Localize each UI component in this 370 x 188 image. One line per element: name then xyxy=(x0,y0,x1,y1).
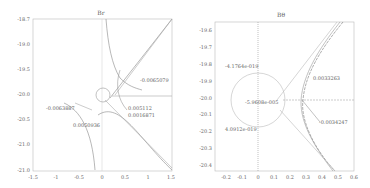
svg-text:-20.0: -20.0 xyxy=(199,95,212,101)
svg-text:-18.7: -18.7 xyxy=(17,16,30,22)
svg-text:0.1: 0.1 xyxy=(270,174,278,180)
svg-text:-19.6: -19.6 xyxy=(199,27,212,33)
svg-text:-1: -1 xyxy=(54,174,59,180)
svg-text:-20.0: -20.0 xyxy=(17,91,30,97)
svg-text:4.0912e-019: 4.0912e-019 xyxy=(225,126,257,132)
svg-text:0.6: 0.6 xyxy=(350,174,358,180)
svg-text:0.0016871: 0.0016871 xyxy=(128,112,155,118)
svg-text:0.3: 0.3 xyxy=(302,174,310,180)
svg-text:-0.5: -0.5 xyxy=(74,174,84,180)
svg-text:0.005112: 0.005112 xyxy=(128,105,152,111)
svg-text:0.4: 0.4 xyxy=(318,174,326,180)
svg-text:-20.1: -20.1 xyxy=(199,111,212,117)
svg-text:0.5: 0.5 xyxy=(121,174,129,180)
right-plot: Bθ -19.6 -19.7 -19.8 -19.9 -20.0 -20.1 -… xyxy=(185,0,370,188)
svg-text:-19.0: -19.0 xyxy=(17,41,30,47)
left-x-ticks: -1.5 -1 -0.5 0 0.5 1 1.5 xyxy=(28,174,175,180)
right-plot-svg: Bθ -19.6 -19.7 -19.8 -19.9 -20.0 -20.1 -… xyxy=(185,0,370,188)
svg-text:-4.1764e-019: -4.1764e-019 xyxy=(225,63,258,69)
right-x-ticks: -0.2 -0.1 0 0.1 0.2 0.3 0.4 0.5 0.6 xyxy=(221,174,358,180)
svg-text:-21.0: -21.0 xyxy=(17,167,30,173)
svg-text:-0.0065079: -0.0065079 xyxy=(140,77,169,83)
svg-text:0: 0 xyxy=(256,174,259,180)
left-plot-svg: Br -18.7 -19.0 -19.5 -20.0 -20.5 -21.0 -… xyxy=(0,0,185,188)
svg-text:-19.9: -19.9 xyxy=(199,78,212,84)
svg-text:1.5: 1.5 xyxy=(167,174,175,180)
svg-text:-19.5: -19.5 xyxy=(17,66,30,72)
right-y-ticks: -19.6 -19.7 -19.8 -19.9 -20.0 -20.1 -20.… xyxy=(199,27,212,168)
svg-text:-1.5: -1.5 xyxy=(28,174,38,180)
svg-text:0.0050936: 0.0050936 xyxy=(73,122,100,128)
right-curves xyxy=(231,22,354,171)
left-plot: Br -18.7 -19.0 -19.5 -20.0 -20.5 -21.0 -… xyxy=(0,0,185,188)
svg-text:-0.2: -0.2 xyxy=(221,174,231,180)
svg-text:-20.4: -20.4 xyxy=(199,162,212,168)
svg-text:-20.5: -20.5 xyxy=(17,116,30,122)
svg-text:0.0033263: 0.0033263 xyxy=(313,75,340,81)
svg-text:-20.3: -20.3 xyxy=(199,145,212,151)
svg-text:-20.2: -20.2 xyxy=(199,128,212,134)
svg-text:-21.0: -21.0 xyxy=(17,141,30,147)
svg-text:0: 0 xyxy=(100,174,103,180)
left-plot-title: Br xyxy=(97,9,104,16)
svg-text:-0.1: -0.1 xyxy=(237,174,247,180)
svg-text:-19.7: -19.7 xyxy=(199,44,212,50)
right-annotations: -4.1764e-019 0.0033263 -5.9608e-005 -0.0… xyxy=(225,63,348,132)
svg-text:0.5: 0.5 xyxy=(334,174,342,180)
svg-text:-0.0034247: -0.0034247 xyxy=(319,119,348,125)
right-plot-title: Bθ xyxy=(277,11,285,18)
svg-text:-0.0063887: -0.0063887 xyxy=(46,105,75,111)
left-y-ticks: -18.7 -19.0 -19.5 -20.0 -20.5 -21.0 -21.… xyxy=(17,16,30,173)
left-curves xyxy=(64,19,172,170)
svg-text:-19.8: -19.8 xyxy=(199,61,212,67)
svg-text:0.2: 0.2 xyxy=(286,174,294,180)
svg-text:-5.9608e-005: -5.9608e-005 xyxy=(245,99,278,105)
svg-text:1: 1 xyxy=(146,174,149,180)
